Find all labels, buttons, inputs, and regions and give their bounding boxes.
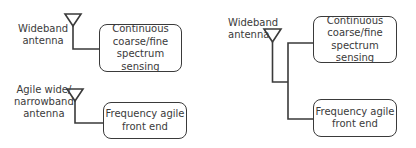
label-line: Wideband — [18, 23, 68, 35]
block-spectrum-sensing-right: Continuous coarse/fine spectrum sensing — [313, 16, 397, 63]
wire — [73, 26, 100, 49]
block-text: front end — [105, 121, 184, 134]
label-line: Wideband — [228, 17, 278, 29]
label-line: antenna — [14, 108, 74, 120]
block-text: Continuous — [314, 15, 396, 28]
label-line: narrowband — [14, 96, 74, 108]
block-frequency-agile-front-end-right: Frequency agile front end — [313, 99, 397, 137]
block-text: Frequency agile — [105, 108, 184, 121]
block-text: spectrum sensing — [314, 40, 396, 65]
block-text: spectrum sensing — [100, 48, 181, 73]
label-line: Agile wide/ — [14, 84, 74, 96]
label-line: antenna — [18, 35, 68, 47]
block-text: Continuous — [100, 23, 181, 36]
wire — [273, 42, 289, 82]
block-spectrum-sensing: Continuous coarse/fine spectrum sensing — [99, 24, 182, 72]
wire — [75, 101, 104, 123]
block-text: front end — [315, 118, 394, 131]
wire-trunk — [288, 43, 313, 119]
block-text: coarse/fine — [314, 27, 396, 40]
antenna-label-agile: Agile wide/ narrowband antenna — [14, 84, 74, 120]
antenna-label-wideband-right: Wideband antenna — [228, 17, 278, 41]
antenna-label-wideband: Wideband antenna — [18, 23, 68, 47]
block-text: coarse/fine — [100, 36, 181, 49]
label-line: antenna — [228, 29, 278, 41]
block-text: Frequency agile — [315, 106, 394, 119]
block-frequency-agile-front-end: Frequency agile front end — [103, 102, 187, 139]
